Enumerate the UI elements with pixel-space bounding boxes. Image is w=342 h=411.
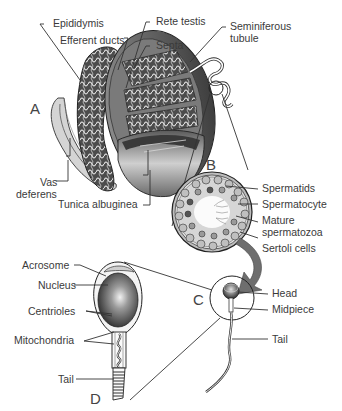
- panel-label-b: B: [206, 156, 216, 173]
- curved-arrow-b-to-c: [236, 238, 262, 294]
- label-mature-spermatozoa-1: Mature: [262, 214, 295, 226]
- reproductive-anatomy-diagram: Epididymis Efferent ducts Rete testis Se…: [0, 0, 342, 411]
- sperm-tail: [206, 312, 232, 392]
- zoom-line-c-d-bottom: [130, 318, 220, 400]
- panel-label-a: A: [30, 100, 40, 117]
- label-acrosome: Acrosome: [22, 259, 69, 271]
- label-sertoli-cells: Sertoli cells: [262, 242, 316, 254]
- label-centrioles: Centrioles: [28, 305, 75, 317]
- panel-a-testis: [40, 22, 232, 198]
- label-tail-d: Tail: [58, 373, 74, 385]
- label-seminiferous-tubule-2: tubule: [230, 32, 259, 44]
- label-seminiferous-tubule-1: Seminiferous: [230, 20, 291, 32]
- panel-b-tubule-cross-section: [172, 172, 258, 252]
- nucleus-shape: [98, 273, 138, 327]
- label-vas-deferens-2: deferens: [16, 188, 57, 200]
- label-efferent-ducts: Efferent ducts: [60, 34, 125, 46]
- label-mitochondria: Mitochondria: [14, 334, 74, 346]
- label-tail-c: Tail: [272, 333, 288, 345]
- tail-segment: [113, 368, 125, 400]
- label-epididymis: Epididymis: [53, 17, 104, 29]
- label-midpiece: Midpiece: [272, 303, 314, 315]
- panel-label-d: D: [90, 390, 101, 407]
- label-spermatocyte: Spermatocyte: [262, 198, 327, 210]
- panel-label-c: C: [193, 291, 204, 308]
- panel-d-sperm-detail: [74, 262, 142, 400]
- label-tunica-albuginea: Tunica albuginea: [58, 198, 138, 210]
- label-mature-spermatozoa-2: spermatozoa: [262, 226, 323, 238]
- zoom-line-a-b-right: [222, 94, 248, 170]
- label-nucleus: Nucleus: [38, 279, 76, 291]
- label-head: Head: [272, 287, 297, 299]
- label-septa: Septa: [156, 39, 184, 51]
- label-rete-testis: Rete testis: [156, 15, 206, 27]
- panel-c-sperm: [206, 276, 268, 392]
- label-spermatids: Spermatids: [262, 182, 315, 194]
- label-vas-deferens-1: Vas: [40, 176, 57, 188]
